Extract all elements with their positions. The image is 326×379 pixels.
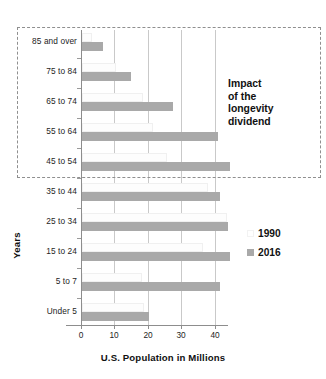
y-label-1: 75 to 84 (0, 66, 77, 76)
y-tick-1 (77, 88, 81, 89)
y-tick-4 (77, 178, 81, 179)
x-axis-title: U.S. Population in Millions (0, 352, 326, 363)
legend-label-2016: 2016 (258, 247, 281, 258)
y-axis-title: Years (11, 216, 22, 276)
x-tick-30 (181, 325, 182, 329)
bar-1990-6 (82, 213, 227, 222)
y-label-0: 85 and over (0, 36, 77, 46)
legend-item-2016: 2016 (247, 243, 281, 262)
x-tick-10 (114, 325, 115, 329)
legend-label-1990: 1990 (258, 228, 281, 239)
annotation-line-1: of the (228, 91, 320, 104)
bar-2016-3 (82, 132, 218, 141)
bar-1990-4 (82, 153, 167, 162)
x-tick-label-10: 10 (102, 330, 126, 340)
y-tick-0 (77, 58, 81, 59)
longevity-dividend-text: Impact of the longevity dividend (228, 78, 320, 128)
y-label-3: 55 to 64 (0, 126, 77, 136)
bar-1990-5 (82, 183, 208, 192)
bar-1990-2 (82, 93, 143, 102)
y-label-9: Under 5 (0, 306, 77, 316)
x-tick-label-40: 40 (203, 330, 227, 340)
bar-group-8 (82, 273, 282, 297)
bar-2016-1 (82, 72, 131, 81)
x-tick-label-20: 20 (136, 330, 160, 340)
y-label-2: 65 to 74 (0, 96, 77, 106)
y-tick-2 (77, 118, 81, 119)
annotation-line-2: longevity (228, 103, 320, 116)
bar-2016-5 (82, 192, 220, 201)
chart-legend: 1990 2016 (247, 224, 281, 262)
bar-group-9 (82, 303, 282, 327)
y-label-4: 45 to 54 (0, 156, 77, 166)
bar-2016-8 (82, 282, 220, 291)
y-tick-7 (77, 268, 81, 269)
y-tick-6 (77, 238, 81, 239)
bar-2016-2 (82, 102, 173, 111)
population-bar-chart: 85 and over 75 to 84 65 to 74 55 to 64 4… (0, 0, 326, 379)
legend-swatch-2016-icon (247, 249, 254, 256)
annotation-line-3: dividend (228, 116, 320, 129)
bar-1990-9 (82, 303, 144, 312)
y-tick-8 (77, 298, 81, 299)
y-label-8: 5 to 7 (0, 276, 77, 286)
bar-2016-0 (82, 42, 103, 51)
bar-2016-6 (82, 222, 228, 231)
x-tick-label-30: 30 (169, 330, 193, 340)
bar-2016-9 (82, 312, 149, 321)
bar-1990-1 (82, 63, 116, 72)
annotation-line-0: Impact (228, 78, 320, 91)
legend-item-1990: 1990 (247, 224, 281, 243)
bar-1990-8 (82, 273, 142, 282)
bar-group-5 (82, 183, 282, 207)
bar-1990-7 (82, 243, 203, 252)
bar-group-0 (82, 33, 282, 57)
bar-2016-7 (82, 252, 230, 261)
bar-1990-3 (82, 123, 153, 132)
bar-1990-0 (82, 33, 92, 42)
y-tick-5 (77, 208, 81, 209)
bar-2016-4 (82, 162, 230, 171)
x-tick-label-0: 0 (69, 330, 93, 340)
x-tick-20 (148, 325, 149, 329)
x-tick-40 (215, 325, 216, 329)
bar-group-4 (82, 153, 282, 177)
x-tick-0 (81, 325, 82, 329)
y-tick-3 (77, 148, 81, 149)
legend-swatch-1990-icon (247, 230, 254, 237)
y-label-5: 35 to 44 (0, 186, 77, 196)
